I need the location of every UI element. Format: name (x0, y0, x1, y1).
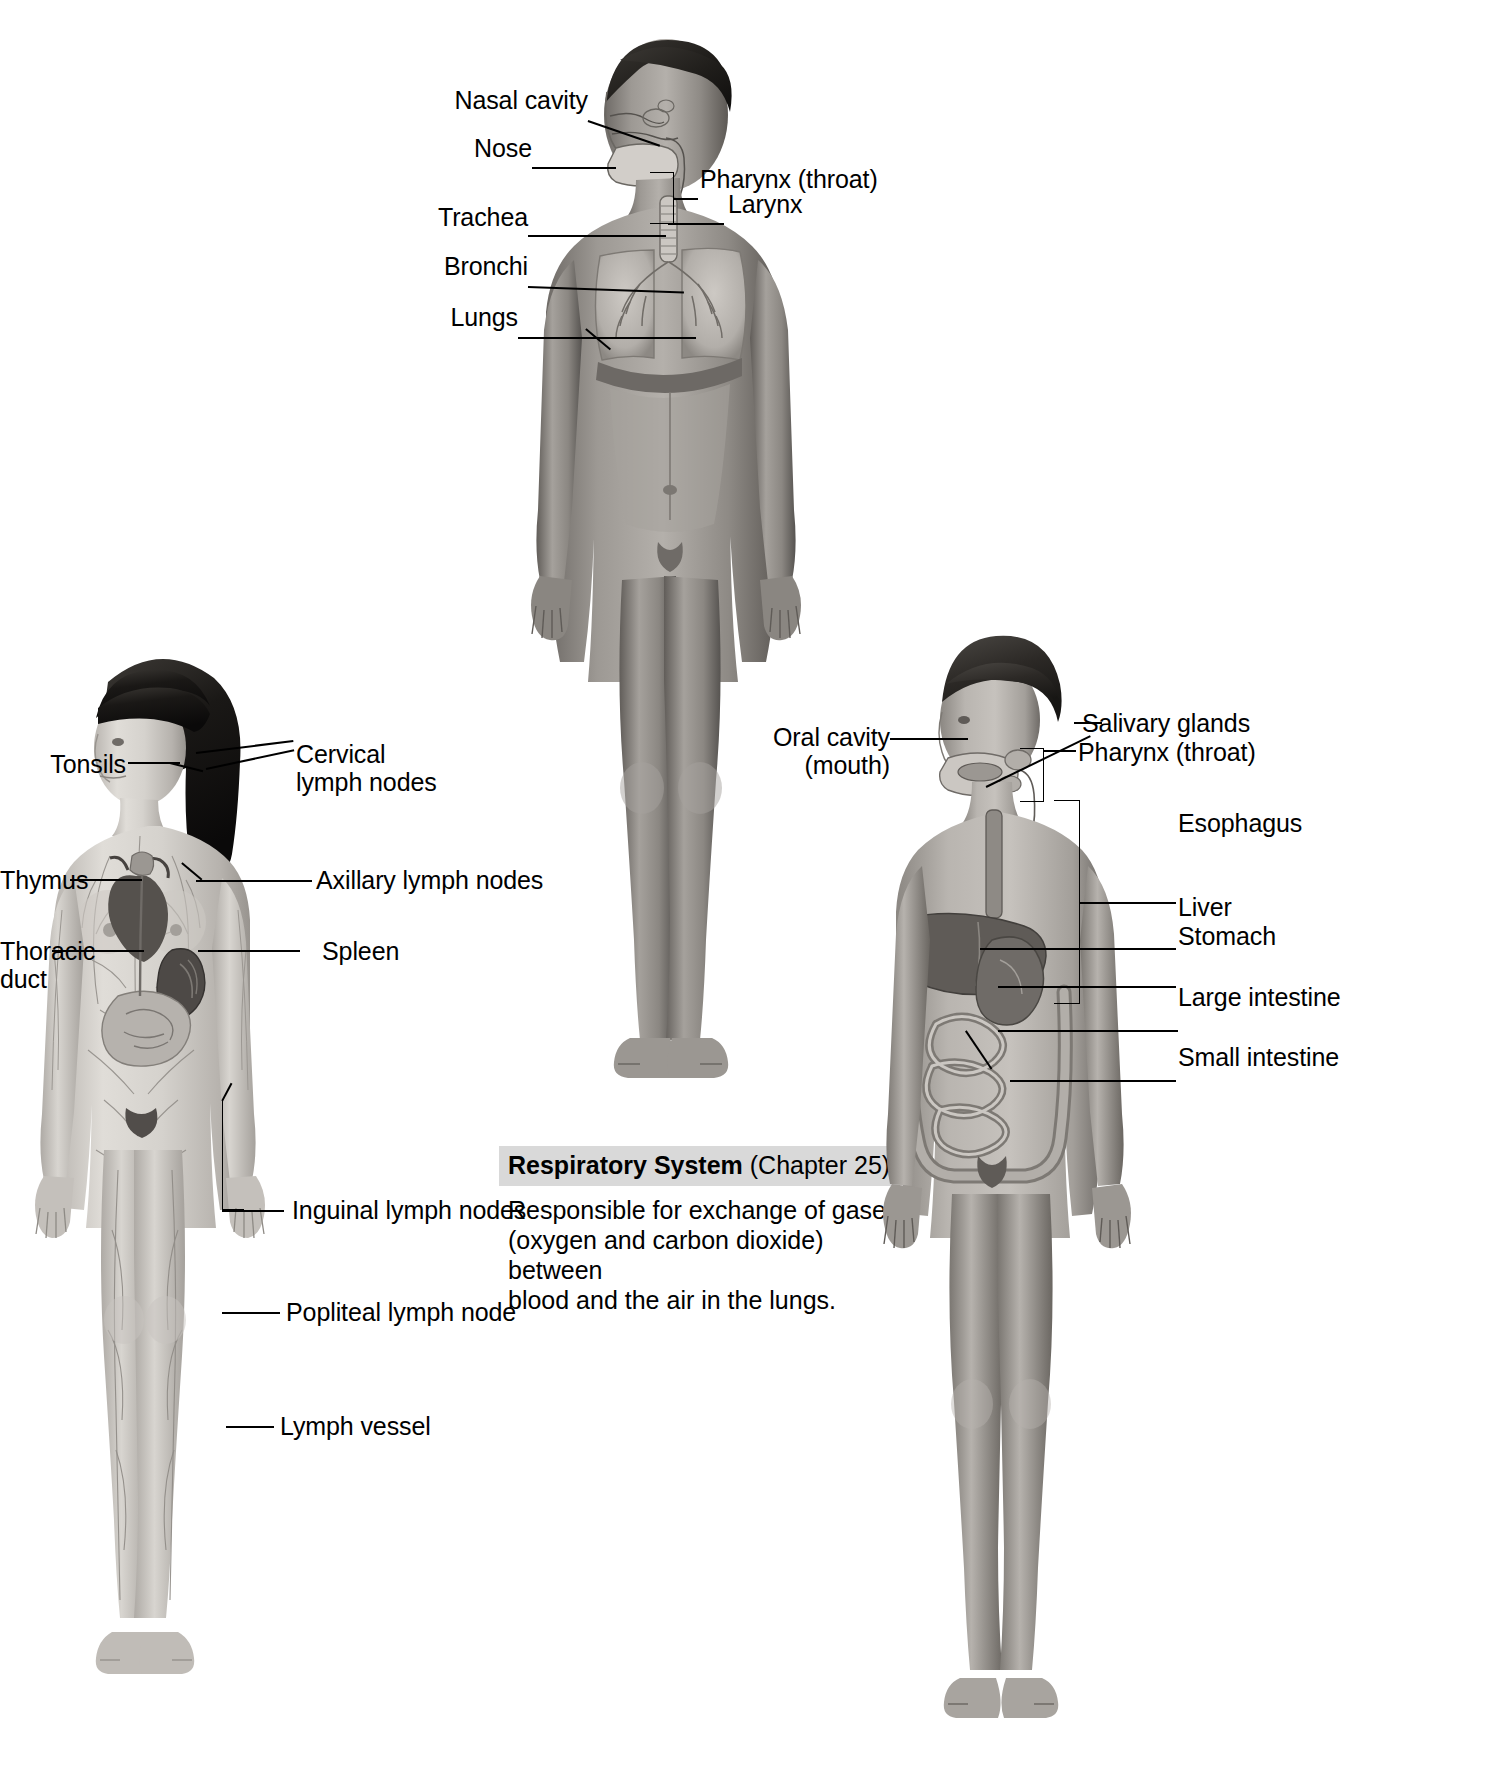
digestive-system-figure (860, 620, 1240, 1786)
leader-large-intestine-2 (998, 1030, 1178, 1032)
label-cervical-lymph-nodes: Cervical lymph nodes (296, 740, 437, 796)
label-oral-cavity: Oral cavity (mouth) (760, 723, 890, 779)
label-lungs: Lungs (180, 303, 518, 331)
label-tonsils: Tonsils (0, 750, 126, 778)
caption-body: Responsible for exchange of gases (oxyge… (499, 1195, 919, 1315)
label-esophagus: Esophagus (1178, 809, 1302, 837)
leader-small-intestine (1010, 1080, 1176, 1082)
label-larynx: Larynx (728, 190, 802, 218)
label-small-intestine: Small intestine (1178, 1043, 1339, 1071)
label-lymph-vessel: Lymph vessel (280, 1412, 431, 1440)
label-pharynx-digestive: Pharynx (throat) (1078, 738, 1256, 766)
label-salivary-glands: Salivary glands (1082, 709, 1250, 737)
leader-larynx (668, 223, 724, 225)
label-liver: Liver (1178, 893, 1232, 921)
leader-inguinal (222, 1210, 284, 1212)
leader-nose (532, 167, 616, 169)
leader-lungs (518, 337, 696, 339)
bracket-pharynx-digestive (1020, 748, 1044, 802)
leader-popliteal (222, 1312, 280, 1314)
label-stomach: Stomach (1178, 922, 1276, 950)
bracket-pharynx (650, 172, 674, 224)
anatomy-figure-page: Nasal cavity Nose Pharynx (throat) Laryn… (0, 0, 1485, 1786)
leader-pharynx (674, 198, 698, 200)
label-inguinal-lymph-nodes: Inguinal lymph nodes (292, 1196, 526, 1224)
digestive-body-art (860, 620, 1240, 1786)
label-thoracic-duct: Thoracic duct (0, 937, 50, 993)
leader-esophagus (1080, 902, 1176, 904)
leader-liver (980, 948, 1176, 950)
leader-trachea (528, 235, 666, 237)
label-thymus: Thymus (0, 866, 68, 894)
label-bronchi: Bronchi (180, 252, 528, 280)
leader-axillary (196, 880, 312, 882)
label-large-intestine: Large intestine (1178, 983, 1341, 1011)
label-nose: Nose (180, 134, 532, 162)
bracket-esophagus (1054, 800, 1080, 1004)
label-pharynx-respiratory: Pharynx (throat) (700, 165, 878, 193)
respiratory-caption: Respiratory System (Chapter 25) Responsi… (499, 1146, 919, 1315)
leader-spleen (198, 950, 300, 952)
label-trachea: Trachea (180, 203, 528, 231)
leader-stomach (998, 986, 1176, 988)
label-axillary-lymph-nodes: Axillary lymph nodes (316, 866, 543, 894)
leader-oral-cavity (890, 738, 968, 740)
label-popliteal-lymph-node: Popliteal lymph node (286, 1298, 516, 1326)
label-nasal-cavity: Nasal cavity (180, 86, 588, 114)
caption-banner: Respiratory System (Chapter 25) (499, 1146, 900, 1186)
leader-lymph-vessel (226, 1426, 274, 1428)
leader-pharynx-digestive (1044, 750, 1076, 752)
label-spleen: Spleen (322, 937, 399, 965)
caption-title: Respiratory System (508, 1151, 743, 1179)
bracket-inguinal (222, 1100, 244, 1210)
